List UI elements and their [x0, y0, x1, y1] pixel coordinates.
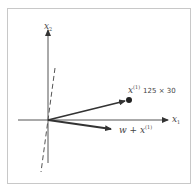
- vector-w-plus-x1: [48, 120, 111, 129]
- x2-subscript: 2: [49, 26, 52, 32]
- vector-x1-endpoint-dot: [126, 97, 132, 103]
- vector-x1-annotation: 125 × 30: [143, 87, 176, 95]
- x1-subscript: 1: [177, 119, 180, 125]
- vector-x1: [48, 101, 125, 120]
- vector-diagram: [0, 0, 193, 195]
- vector-w-plus-x1-label: w + x(1): [119, 125, 152, 135]
- vector-w-plus-x1-superscript: (1): [145, 124, 152, 130]
- x1-axis-label: x1: [172, 115, 180, 125]
- vector-w-plus-x1-label-text: w + x: [119, 125, 145, 135]
- vector-x1-superscript: (1): [133, 84, 140, 90]
- x2-axis-label: x2: [44, 22, 52, 32]
- vector-x1-label: x(1) 125 × 30: [128, 85, 176, 95]
